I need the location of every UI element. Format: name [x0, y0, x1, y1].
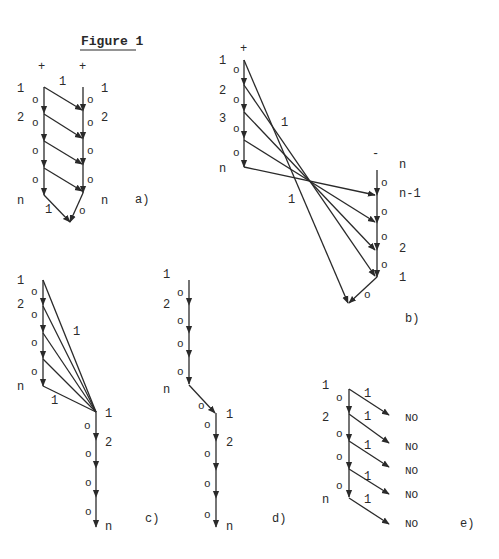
panel-a-left-label-2: 2 [17, 111, 24, 125]
panel-e-zero-left: o [336, 480, 343, 492]
panel-d-right-label-1: 1 [226, 408, 233, 422]
panel-d-zero-right: o [204, 419, 211, 431]
panel-b-bottom-weight: o [364, 289, 371, 301]
panel-d-zero-right: o [204, 509, 211, 521]
panel-e-output: NO [405, 412, 419, 424]
panel-d-zero-left: o [177, 366, 184, 378]
figure-title-text: Figure 1 [81, 34, 144, 49]
panel-d-diag-weight: o [198, 400, 205, 412]
panel-a-right-label-n: n [101, 194, 108, 208]
panel-c-zero-left: o [31, 309, 38, 321]
panel-d-label: d) [272, 512, 286, 526]
panel-e: 1 2 n o o o o 1 1 1 1 1 NO NO NO NO NO e… [322, 379, 474, 531]
panel-e-output: NO [405, 518, 419, 530]
panel-b-left-label-3: 3 [219, 112, 226, 126]
panel-a-left-label-n: n [17, 194, 24, 208]
panel-a-left-polarity: + [38, 60, 45, 74]
panel-e-label: e) [460, 517, 474, 531]
panel-c-left-label-2: 2 [17, 298, 24, 312]
panel-a-zero-right: o [87, 174, 94, 186]
panel-c-fan-weight: 1 [73, 325, 80, 339]
panel-e-zero-left: o [336, 392, 343, 404]
panel-b-left-label-2: 2 [219, 84, 226, 98]
panel-a: + + 1 1 2 n 1 2 n o o o o o o o o 1 [17, 60, 149, 222]
panel-a-zero-right: o [87, 117, 94, 129]
panel-b: + - 1 2 3 n o o o o n n-1 2 1 o o o [219, 42, 421, 326]
panel-c-right-label-1: 1 [105, 407, 112, 421]
figure-1-diagram: Figure 1 + + 1 1 2 n 1 2 n o o o o o [0, 0, 499, 559]
panel-c-zero-left: o [31, 337, 38, 349]
panel-c-right-label-n: n [105, 520, 112, 534]
panel-b-zero-left: o [233, 123, 240, 135]
panel-c-left-label-1: 1 [17, 274, 24, 288]
panel-e-branch-weight: 1 [364, 439, 371, 453]
panel-b-right-polarity: - [372, 147, 379, 161]
panel-a-right-label-1: 1 [101, 82, 108, 96]
panel-d: 1 2 n o o o o o 1 2 n o o o o d) [163, 268, 286, 534]
panel-b-upper-weight: 1 [281, 116, 288, 130]
panel-b-left-label-1: 1 [219, 54, 226, 68]
panel-b-zero-left: o [233, 147, 240, 159]
panel-b-right-label-2: 2 [399, 242, 406, 256]
panel-b-lower-weight: 1 [288, 193, 295, 207]
panel-b-zero-right: o [381, 177, 388, 189]
panel-e-zero-left: o [336, 428, 343, 440]
panel-b-zero-right: o [381, 259, 388, 271]
panel-a-zero-left: o [32, 145, 39, 157]
panel-b-zero-right: o [381, 231, 388, 243]
panel-e-left-label-n: n [322, 493, 329, 507]
panel-e-output: NO [405, 489, 419, 501]
figure-title: Figure 1 [80, 34, 144, 50]
panel-e-branch-weight: 1 [364, 387, 371, 401]
panel-d-left-label-n: n [163, 383, 170, 397]
panel-d-zero-left: o [177, 287, 184, 299]
panel-a-zero-right: o [87, 145, 94, 157]
panel-d-right-label-n: n [226, 520, 233, 534]
panel-b-zero-left: o [233, 94, 240, 106]
panel-b-right-label-n-minus-1: n-1 [399, 187, 421, 201]
panel-e-zero-left: o [336, 451, 343, 463]
panel-c-zero-left: o [31, 286, 38, 298]
panel-c-zero-right: o [85, 506, 92, 518]
panel-e-left-label-2: 2 [322, 411, 329, 425]
panel-a-zero-left: o [32, 117, 39, 129]
panel-c-zero-left: o [31, 366, 38, 378]
panel-a-bottom-right-weight: o [79, 205, 86, 217]
panel-e-output: NO [405, 441, 419, 453]
panel-b-right-label-1: 1 [399, 271, 406, 285]
panel-e-branch-weight: 1 [364, 410, 371, 424]
panel-e-left-label-1: 1 [322, 379, 329, 393]
panel-a-bottom-left-weight: 1 [45, 203, 52, 217]
panel-c-zero-right: o [85, 477, 92, 489]
panel-d-left-label-2: 2 [163, 298, 170, 312]
panel-b-zero-left: o [233, 64, 240, 76]
panel-b-left-polarity: + [240, 42, 247, 56]
panel-e-output: NO [405, 465, 419, 477]
panel-c-zero-right: o [84, 420, 91, 432]
panel-b-left-label-n: n [219, 162, 226, 176]
panel-a-zero-left: o [32, 94, 39, 106]
panel-e-branch-weight: 1 [364, 493, 371, 507]
panel-d-zero-right: o [204, 478, 211, 490]
panel-a-zero-left: o [32, 174, 39, 186]
panel-c-right-label-2: 2 [105, 436, 112, 450]
panel-a-top-weight: 1 [59, 75, 66, 89]
panel-d-zero-left: o [177, 338, 184, 350]
panel-a-right-polarity: + [79, 60, 86, 74]
panel-c-zero-right: o [85, 448, 92, 460]
panel-c: 1 2 n o o o o 1 1 1 2 n o o o o c) [17, 274, 159, 534]
panel-d-zero-left: o [177, 315, 184, 327]
panel-c-bottom-weight: 1 [51, 394, 58, 408]
panel-a-label: a) [135, 193, 149, 207]
panel-a-zero-right: o [87, 94, 94, 106]
panel-c-left-label-n: n [17, 380, 24, 394]
panel-b-right-label-n: n [399, 158, 406, 172]
panel-b-zero-right: o [381, 206, 388, 218]
panel-d-left-label-1: 1 [163, 268, 170, 282]
panel-b-label: b) [405, 312, 419, 326]
panel-c-label: c) [145, 512, 159, 526]
panel-d-zero-right: o [204, 448, 211, 460]
panel-d-right-label-2: 2 [226, 436, 233, 450]
panel-a-left-label-1: 1 [17, 82, 24, 96]
panel-e-branch-weight: 1 [364, 470, 371, 484]
